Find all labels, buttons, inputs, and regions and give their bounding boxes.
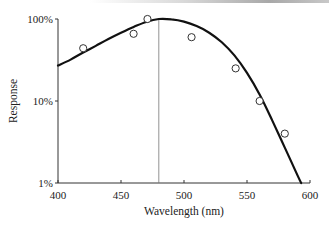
- data-point: [256, 97, 263, 104]
- y-axis-label: Response: [7, 79, 20, 123]
- data-point: [130, 30, 137, 37]
- points-group: [80, 15, 289, 137]
- chart: 1%10%100%400450500550600 Wavelength (nm)…: [0, 0, 329, 228]
- x-tick-label: 600: [302, 189, 319, 201]
- x-tick-label: 450: [113, 189, 130, 201]
- x-tick-label: 550: [239, 189, 256, 201]
- x-tick-label: 500: [176, 189, 193, 201]
- data-point: [188, 34, 195, 41]
- x-tick-label: 400: [50, 189, 67, 201]
- y-tick-label: 100%: [27, 13, 53, 25]
- data-point: [232, 65, 239, 72]
- curve-group: [58, 19, 301, 183]
- y-tick-label: 10%: [33, 95, 53, 107]
- response-curve: [58, 19, 301, 183]
- y-tick-label: 1%: [38, 177, 53, 189]
- axes: 1%10%100%400450500550600: [27, 13, 318, 201]
- data-point: [144, 15, 151, 22]
- data-point: [80, 45, 87, 52]
- x-axis-label: Wavelength (nm): [144, 205, 224, 218]
- data-point: [281, 130, 288, 137]
